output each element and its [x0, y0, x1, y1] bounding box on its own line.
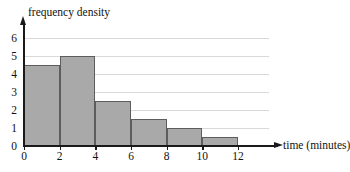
- plot-area: [24, 38, 238, 146]
- x-axis-tick-label: 8: [157, 150, 177, 162]
- x-axis-tick-label: 12: [228, 150, 248, 162]
- x-axis-tick-label: 4: [85, 150, 105, 162]
- y-axis-tick-label: 1: [4, 122, 17, 134]
- y-axis-tick-label: 3: [4, 86, 17, 98]
- y-axis-tick-label: 5: [4, 50, 17, 62]
- x-axis-tick-label: 0: [14, 150, 34, 162]
- histogram-bar: [95, 101, 131, 146]
- y-axis-line: [23, 24, 25, 147]
- x-axis-tick-label: 10: [192, 150, 212, 162]
- y-axis-tick-label: 2: [4, 104, 17, 116]
- x-axis-label: time (minutes): [283, 139, 350, 151]
- y-axis-tick-label: 4: [4, 68, 17, 80]
- x-axis-arrow-icon: [274, 142, 283, 148]
- histogram-bar: [167, 128, 203, 146]
- x-axis-tick-label: 6: [121, 150, 141, 162]
- y-axis-arrow-icon: [20, 16, 26, 25]
- histogram-bar: [131, 119, 167, 146]
- chart-title-cropped: [0, 0, 344, 4]
- x-axis-line: [23, 145, 278, 147]
- gridline: [24, 38, 269, 39]
- x-axis-tick-label: 2: [50, 150, 70, 162]
- histogram-bar: [24, 65, 60, 146]
- y-axis-tick-label: 0: [4, 140, 17, 152]
- y-axis-label: frequency density: [28, 6, 110, 18]
- histogram-bar: [60, 56, 96, 146]
- y-axis-tick-label: 6: [4, 32, 17, 44]
